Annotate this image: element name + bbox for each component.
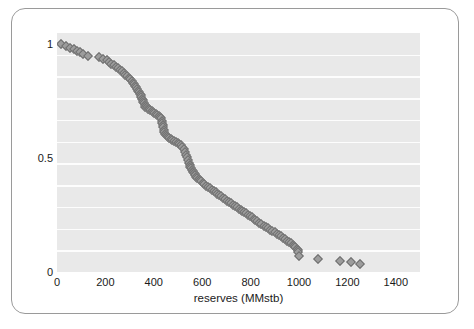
gridline [57,76,420,78]
plot-region [57,33,420,272]
gridline [57,250,420,252]
data-point-marker [335,256,345,266]
y-tick-label: 0.5 [38,152,53,164]
x-tick-label: 800 [241,276,259,288]
x-axis-title: reserves (MMstb) [57,292,420,304]
data-point-marker [294,251,304,261]
gridline [57,142,420,144]
x-tick-label: 600 [193,276,211,288]
y-axis-tick-labels: 00.51 [20,33,53,272]
x-tick-label: 0 [54,276,60,288]
data-point-marker [355,259,365,269]
gridline [57,55,420,57]
x-tick-label: 1200 [335,276,359,288]
chart-area: 00.51 0200400600800100012001400 reserves… [0,0,474,329]
x-tick-label: 1400 [384,276,408,288]
x-tick-label: 400 [145,276,163,288]
data-point-marker [346,257,356,267]
gridline [57,163,420,165]
x-axis-tick-labels: 0200400600800100012001400 [57,276,420,292]
data-point-marker [313,254,323,264]
gridline [57,185,420,187]
caption-sliver [13,321,453,329]
y-tick-label: 0 [47,266,53,278]
x-tick-label: 1000 [287,276,311,288]
gridline [57,120,420,122]
y-tick-label: 1 [47,38,53,50]
gridline [57,98,420,100]
gridline [57,229,420,231]
x-tick-label: 200 [96,276,114,288]
